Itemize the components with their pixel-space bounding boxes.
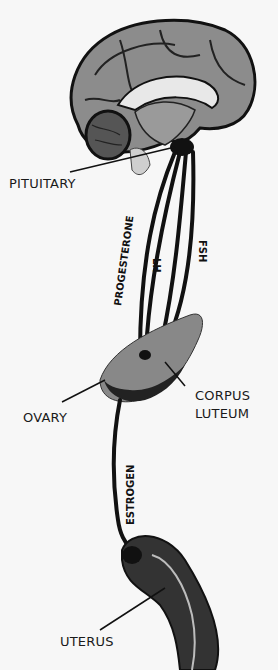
estrogen-label: ESTROGEN: [125, 465, 136, 525]
uterus-label: UTERUS: [60, 634, 114, 649]
ovary-label: OVARY: [23, 410, 67, 425]
uterus-illustration: [122, 536, 218, 670]
ovary-illustration: [100, 314, 203, 402]
fsh-label: FSH: [197, 240, 208, 262]
corpus-luteum-label-line2: LUTEUM: [195, 406, 249, 421]
diagram-artwork: [0, 0, 278, 670]
uterus-pointer: [100, 588, 165, 630]
brain-illustration: [71, 20, 255, 174]
pituitary-label: PITUITARY: [9, 176, 76, 191]
lh-label: LH: [151, 258, 162, 273]
ovary-pointer: [62, 380, 105, 402]
corpus-luteum-label-line1: CORPUS: [195, 388, 250, 403]
